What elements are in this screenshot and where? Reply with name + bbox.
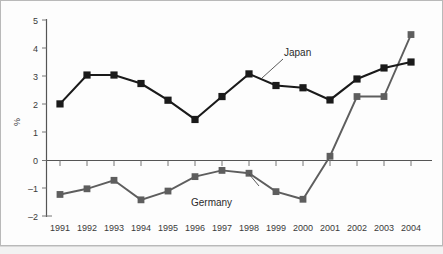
x-tick-label-1992: 1992: [77, 223, 97, 233]
y-axis-title: %: [12, 118, 22, 126]
x-tick-marks: [60, 161, 411, 167]
y-tick-label-1: 1: [33, 128, 38, 138]
germany-marker: [138, 196, 145, 203]
germany-marker: [327, 153, 334, 160]
x-tick-label-2004: 2004: [401, 223, 421, 233]
japan-marker: [56, 100, 63, 107]
germany-marker: [381, 93, 388, 100]
series-germany: [57, 31, 415, 203]
line-chart-plot: 5 4 3 2 1 0 –1 –2 %: [0, 0, 443, 254]
japan-marker: [245, 70, 252, 77]
germany-marker: [408, 31, 415, 38]
japan-marker: [326, 96, 333, 103]
x-tick-label-1997: 1997: [212, 223, 232, 233]
japan-marker: [380, 64, 387, 71]
y-tick-label-4: 4: [33, 44, 38, 54]
japan-marker: [137, 80, 144, 87]
japan-leader-line: [262, 59, 283, 78]
x-tick-label-1999: 1999: [266, 223, 286, 233]
chart-figure: 5 4 3 2 1 0 –1 –2 %: [0, 0, 443, 254]
japan-marker: [407, 58, 414, 65]
germany-marker: [219, 167, 226, 174]
germany-marker: [165, 188, 172, 195]
y-tick-label-0: 0: [33, 156, 38, 166]
x-tick-label-1995: 1995: [158, 223, 178, 233]
germany-series-label: Germany: [191, 197, 232, 208]
x-tick-label-1993: 1993: [104, 223, 124, 233]
y-tick-marks: [42, 20, 47, 216]
x-tick-label-1991: 1991: [50, 223, 70, 233]
y-tick-labels: 5 4 3 2 1 0 –1 –2: [28, 16, 38, 222]
japan-marker: [218, 93, 225, 100]
germany-marker: [273, 188, 280, 195]
axes-group: [47, 19, 433, 217]
japan-marker: [272, 82, 279, 89]
y-tick-label-minus-1: –1: [28, 184, 38, 194]
japan-marker: [191, 116, 198, 123]
x-tick-labels: 1991 1992 1993 1994 1995 1996 1997 1998 …: [50, 223, 421, 233]
germany-line: [60, 35, 411, 200]
y-tick-label-2: 2: [33, 100, 38, 110]
germany-marker: [354, 93, 361, 100]
germany-marker: [57, 191, 64, 198]
japan-marker: [110, 71, 117, 78]
germany-marker: [246, 170, 253, 177]
japan-marker: [353, 75, 360, 82]
x-tick-label-2001: 2001: [320, 223, 340, 233]
germany-marker: [111, 177, 118, 184]
y-tick-label-5: 5: [33, 16, 38, 26]
japan-series-label: Japan: [284, 47, 311, 58]
japan-line: [60, 62, 411, 119]
germany-marker: [84, 185, 91, 192]
y-tick-label-minus-2: –2: [28, 212, 38, 222]
x-tick-label-2003: 2003: [374, 223, 394, 233]
germany-marker: [300, 196, 307, 203]
x-tick-label-2000: 2000: [293, 223, 313, 233]
japan-marker: [299, 84, 306, 91]
x-tick-label-1994: 1994: [131, 223, 151, 233]
germany-markers: [57, 31, 415, 203]
japan-marker: [83, 71, 90, 78]
x-tick-label-1998: 1998: [239, 223, 259, 233]
germany-marker: [192, 173, 199, 180]
y-tick-label-3: 3: [33, 72, 38, 82]
japan-marker: [164, 97, 171, 104]
japan-markers: [56, 58, 414, 123]
x-tick-label-2002: 2002: [347, 223, 367, 233]
x-tick-label-1996: 1996: [185, 223, 205, 233]
series-japan: [56, 58, 414, 123]
